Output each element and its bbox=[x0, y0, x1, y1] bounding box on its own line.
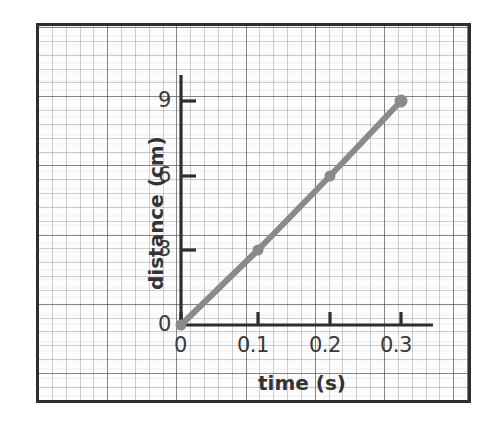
data-point-0-0 bbox=[176, 320, 187, 331]
x-tick-label-0.3: 0.3 bbox=[380, 333, 412, 357]
x-axis-ticks bbox=[181, 312, 401, 325]
data-point-0.3-9 bbox=[395, 95, 408, 108]
data-point-0.2-6 bbox=[325, 171, 336, 182]
x-tick-label-0.2: 0.2 bbox=[309, 333, 341, 357]
y-axis-title: distance (cm) bbox=[144, 136, 168, 290]
x-tick-label-0.1: 0.1 bbox=[237, 333, 269, 357]
data-point-0.1-3 bbox=[253, 245, 264, 256]
y-axis-ticks bbox=[181, 101, 196, 250]
x-axis-title: time (s) bbox=[258, 371, 346, 395]
data-line-distance bbox=[181, 101, 401, 325]
x-tick-label-0: 0 bbox=[174, 333, 187, 357]
y-tick-label-9: 9 bbox=[158, 88, 171, 112]
chart-page: 0 0.1 0.2 0.3 0 3 6 9 time (s) distance … bbox=[0, 0, 498, 433]
y-tick-label-0: 0 bbox=[158, 312, 171, 336]
plot-area bbox=[0, 0, 498, 433]
